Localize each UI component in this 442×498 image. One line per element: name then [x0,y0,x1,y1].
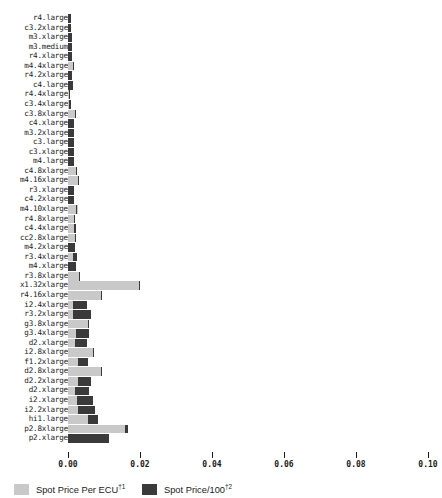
bar-spot-price-100 [139,281,140,290]
bar-spot-price-100 [76,329,89,338]
bar-spot-price-per-ecu [68,291,102,300]
bar-spot-price-per-ecu [68,425,128,434]
bar-spot-price-100 [73,62,75,71]
bar-spot-price-100 [76,167,77,176]
bar-spot-price-100 [88,415,98,424]
y-axis-tick-label: c4.2xlarge [0,194,68,204]
bar-spot-price-100 [75,110,76,119]
x-axis-tick [212,452,213,458]
bar-spot-price-per-ecu [68,281,140,290]
bar-spot-price-100 [93,348,94,357]
y-axis-tick-label: p2.xlarge [0,433,68,443]
legend-label: Spot Price/100†2 [164,483,232,495]
y-axis-tick-label: x1.32xlarge [0,280,68,290]
x-axis-tick [140,452,141,458]
legend-item[interactable]: Spot Price/100†2 [142,482,232,496]
y-axis-tick-label: c3.xlarge [0,147,68,157]
bar-spot-price-100 [68,129,74,138]
y-axis-tick-label: r4.xlarge [0,51,68,61]
y-axis-tick-label: r4.2xlarge [0,70,68,80]
y-axis-tick-label: i2.xlarge [0,395,68,405]
x-axis-tick-label: 0.06 [254,460,314,469]
y-axis-tick-label: m3.xlarge [0,32,68,42]
bar-spot-price-100 [68,24,71,33]
legend-label-text: Spot Price Per ECU [36,485,118,495]
x-axis-tick [356,452,357,458]
bar-spot-price-100 [68,71,72,80]
bar-spot-price-100 [78,176,79,185]
bar-spot-price-100 [75,339,87,348]
bar-spot-price-100 [68,196,74,205]
y-axis-tick-label: c4.4xlarge [0,223,68,233]
legend-label: Spot Price Per ECU†1 [36,483,125,495]
bar-spot-price-100 [78,358,88,367]
y-axis-tick-label: hi1.large [0,414,68,424]
bar-spot-price-100 [68,81,73,90]
bar-spot-price-100 [68,243,75,252]
y-axis-tick-label: i2.2xlarge [0,405,68,415]
y-axis-tick-label: r4.8xlarge [0,214,68,224]
y-axis-tick-label: c4.xlarge [0,118,68,128]
bar-spot-price-100 [68,119,74,128]
y-axis-tick-label: m4.2xlarge [0,242,68,252]
y-axis-tick-label: m4.large [0,156,68,166]
bar-spot-price-per-ecu [68,320,89,329]
bar-spot-price-100 [68,262,76,271]
x-axis-tick [428,452,429,458]
y-axis-tick-label: m4.10xlarge [0,204,68,214]
y-axis-tick-label: g3.4xlarge [0,328,68,338]
y-axis-tick-label: r3.xlarge [0,185,68,195]
x-axis-tick [284,452,285,458]
bar-spot-price-100 [88,320,89,329]
x-axis: 0.000.020.040.060.080.10 [0,452,431,482]
legend-footnote-marker: †2 [225,483,232,490]
x-axis-tick-label: 0.02 [110,460,170,469]
bar-spot-price-100 [77,396,93,405]
bar-spot-price-100 [73,310,91,319]
bar-spot-price-100 [76,205,77,214]
bar-spot-price-100 [69,90,71,99]
y-axis-tick-label: g3.8xlarge [0,319,68,329]
legend-item[interactable]: Spot Price Per ECU†1 [14,482,125,496]
y-axis-tick-label: m4.xlarge [0,261,68,271]
y-axis-tick-label: r4.4xlarge [0,89,68,99]
y-axis-tick-label: cc2.8xlarge [0,233,68,243]
y-axis-tick-label: r3.4xlarge [0,252,68,262]
y-axis-tick-label: r4.large [0,13,68,23]
legend-label-text: Spot Price/100 [164,485,225,495]
bar-spot-price-100 [78,377,91,386]
y-axis-tick-label: c3.large [0,137,68,147]
y-axis-tick-label: i2.8xlarge [0,347,68,357]
bar-spot-price-100 [68,434,109,443]
y-axis-tick-label: m4.4xlarge [0,61,68,71]
y-axis-tick-label: r3.2xlarge [0,309,68,319]
y-axis-tick-label: d2.xlarge [0,338,68,348]
y-axis-tick-label: c4.8xlarge [0,166,68,176]
legend-swatch-icon [142,484,157,495]
x-axis-tick-label: 0.04 [182,460,242,469]
plot-area: r4.largec3.2xlargem3.xlargem3.mediumr4.x… [0,0,431,452]
bar-spot-price-100 [101,291,102,300]
y-axis-tick-label: c3.8xlarge [0,109,68,119]
bar-spot-price-100 [68,148,74,157]
x-axis-tick [68,452,69,458]
bar-spot-price-100 [125,425,128,434]
y-axis-tick-label: c3.2xlarge [0,23,68,33]
bar-spot-price-100 [68,52,72,61]
bar-spot-price-100 [74,224,76,233]
bar-spot-price-100 [73,301,88,310]
bar-spot-price-100 [101,367,102,376]
legend-footnote-marker: †1 [118,483,125,490]
chart-legend: Spot Price Per ECU†1Spot Price/100†2 [14,482,431,498]
bar-spot-price-per-ecu [68,367,102,376]
y-axis-tick-label: f1.2xlarge [0,357,68,367]
y-axis-tick-label: p2.8xlarge [0,424,68,434]
y-axis-tick-label: d2.2xlarge [0,376,68,386]
y-axis-tick-label: d2.xlarge [0,385,68,395]
y-axis-tick-label: m3.2xlarge [0,128,68,138]
y-axis-tick-label: c3.4xlarge [0,99,68,109]
bar-spot-price-100 [73,253,78,262]
y-axis-tick-label: d2.8xlarge [0,366,68,376]
bar-spot-price-100 [74,215,75,224]
